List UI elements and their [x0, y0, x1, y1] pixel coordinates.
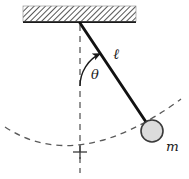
mass-label: m — [166, 138, 179, 154]
pendulum-figure: ℓ θ m — [0, 0, 189, 179]
ceiling-support — [23, 6, 136, 22]
pendulum-bob — [141, 120, 163, 142]
angle-label: θ — [91, 67, 99, 82]
length-label: ℓ — [113, 46, 119, 62]
ceiling-hatch-fill — [23, 6, 136, 22]
pendulum-diagram-svg: ℓ θ m — [0, 0, 189, 179]
equilibrium-cross-marker — [73, 145, 87, 159]
